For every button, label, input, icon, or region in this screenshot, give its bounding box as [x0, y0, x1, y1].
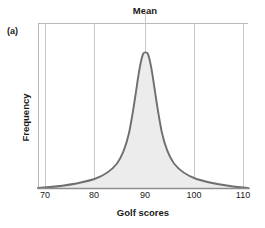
- chart-figure: Mean (a) Frequency 70 80 90 100 110 Golf…: [0, 0, 265, 228]
- x-tick-70: 70: [30, 190, 60, 201]
- x-tick-90: 90: [130, 190, 160, 201]
- x-axis-label: Golf scores: [38, 207, 248, 219]
- distribution-fill: [38, 52, 248, 188]
- x-tick-100: 100: [179, 190, 209, 201]
- x-tick-80: 80: [79, 190, 109, 201]
- x-tick-110: 110: [228, 190, 258, 201]
